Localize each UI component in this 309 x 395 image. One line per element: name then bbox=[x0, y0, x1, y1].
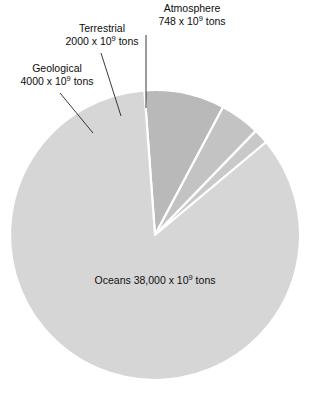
pie-chart-figure bbox=[0, 0, 309, 395]
callout-atmosphere: Atmosphere 748 x 109 tons bbox=[134, 2, 250, 28]
slice-label-oceans: Oceans 38,000 x 109 tons bbox=[75, 274, 235, 287]
callout-geological-value: 4000 x 109 tons bbox=[2, 75, 112, 88]
callout-terrestrial-value-prefix: 2000 x 10 bbox=[65, 35, 111, 47]
slice-label-oceans-value-suffix: tons bbox=[193, 274, 216, 286]
callout-terrestrial-value: 2000 x 109 tons bbox=[44, 35, 160, 48]
slice-label-oceans-name: Oceans bbox=[95, 274, 131, 286]
pie-slices-group bbox=[10, 90, 300, 380]
callout-atmosphere-name: Atmosphere bbox=[134, 2, 250, 15]
slice-label-oceans-value: 38,000 x 109 tons bbox=[134, 274, 216, 286]
callout-atmosphere-value-prefix: 748 x 10 bbox=[158, 15, 198, 27]
callout-atmosphere-value: 748 x 109 tons bbox=[134, 15, 250, 28]
callout-geological-name: Geological bbox=[2, 62, 112, 75]
callout-atmosphere-value-suffix: tons bbox=[203, 15, 226, 27]
slice-label-oceans-value-prefix: 38,000 x 10 bbox=[134, 274, 189, 286]
callout-geological-value-prefix: 4000 x 10 bbox=[20, 75, 66, 87]
callout-geological-value-suffix: tons bbox=[71, 75, 94, 87]
callout-geological: Geological 4000 x 109 tons bbox=[2, 62, 112, 88]
callout-terrestrial-value-suffix: tons bbox=[116, 35, 139, 47]
